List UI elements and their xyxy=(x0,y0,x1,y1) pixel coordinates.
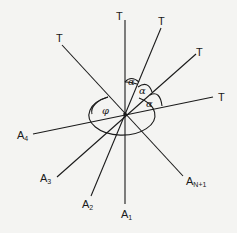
line-1-bottom-label: A1 xyxy=(121,208,132,221)
line-1-top-label: T xyxy=(116,10,123,22)
angle-diagram: T T T T T A1 A2 A3 A4 AN+1 α α α φ xyxy=(0,0,237,233)
line-2-bottom-label: A2 xyxy=(82,198,93,211)
alpha-label-1: α xyxy=(128,76,135,87)
alpha-label-2: α xyxy=(139,85,146,96)
line-5-top-label: T xyxy=(56,32,63,44)
diagram-canvas: T T T T T A1 A2 A3 A4 AN+1 α α α φ xyxy=(0,0,237,233)
line-4-top-label: T xyxy=(218,91,225,103)
alpha-label-3: α xyxy=(146,98,153,109)
line-5-bottom-label: AN+1 xyxy=(186,175,206,188)
line-3-top-label: T xyxy=(196,46,203,58)
line-4-bottom-label: A4 xyxy=(17,129,28,142)
line-4 xyxy=(33,97,213,134)
center-point xyxy=(123,112,127,116)
phi-label: φ xyxy=(102,105,109,116)
line-3-bottom-label: A3 xyxy=(40,172,51,185)
line-2-top-label: T xyxy=(158,15,165,27)
